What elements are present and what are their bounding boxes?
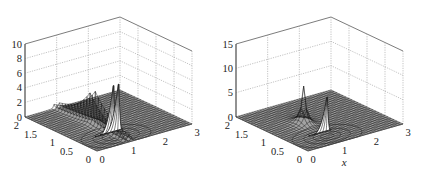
x-tick-label: 2 — [374, 136, 379, 147]
z-tick-label: 5 — [228, 87, 233, 98]
z-tick-label: 10 — [12, 39, 23, 50]
x-tick-label: 2 — [163, 136, 168, 147]
z-gridline — [25, 61, 192, 95]
plot-area: 0246810012300.511.52 — [12, 17, 200, 165]
y-tick-label: 0.5 — [271, 146, 284, 157]
z-tick-label: 10 — [223, 63, 234, 74]
x-axis-label: x — [341, 156, 347, 168]
y-tick-label: 1 — [261, 137, 266, 148]
y-tick-label: 0.5 — [60, 146, 73, 157]
surface-plot-left: 0246810012300.511.52 — [0, 0, 212, 179]
z-tick-label: 4 — [17, 82, 23, 93]
x-tick-label: 0 — [310, 154, 315, 165]
z-gridline — [25, 46, 192, 80]
surface-plot-left-svg: 0246810012300.511.52 — [0, 0, 212, 179]
z-tick-label: 8 — [17, 53, 22, 64]
y-tick-label: 1 — [50, 137, 55, 148]
x-tick-label: 1 — [342, 145, 347, 156]
z-tick-label: 2 — [17, 97, 22, 108]
surface-plot-right: 051015012300.511.52x — [211, 0, 423, 179]
z-tick-label: 15 — [223, 39, 234, 50]
x-tick-label: 3 — [405, 127, 410, 138]
y-tick-label: 0 — [86, 154, 91, 165]
y-tick-label: 2 — [14, 120, 19, 131]
plot-area: 051015012300.511.52x — [223, 17, 411, 168]
y-tick-label: 1.5 — [235, 129, 248, 140]
surface-plot-right-svg: 051015012300.511.52x — [211, 0, 423, 179]
y-tick-label: 0 — [297, 154, 302, 165]
x-tick-label: 3 — [194, 127, 199, 138]
z-gridline — [236, 41, 403, 75]
y-tick-label: 1.5 — [24, 129, 37, 140]
y-tick-label: 2 — [225, 120, 230, 131]
x-tick-label: 0 — [99, 154, 104, 165]
z-tick-label: 6 — [17, 68, 22, 79]
x-tick-label: 1 — [131, 145, 136, 156]
